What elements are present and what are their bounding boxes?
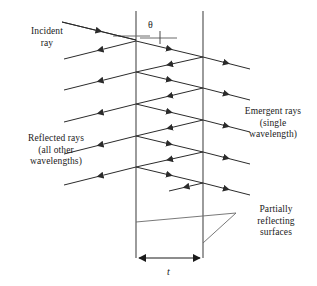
reflected-ray-3 [64,104,136,122]
internal-ray-segment-8 [136,152,203,167]
emergent-ray-1 [203,57,250,69]
reflected-ray-5 [64,167,136,185]
internal-ray-segment-6 [136,120,203,136]
emergent-ray-2 [203,88,250,100]
internal-ray-segment-5 [136,104,203,120]
angle-theta-label: θ [148,19,153,31]
angle-theta-construction [113,31,177,44]
partially-reflecting-surfaces-label: Partially reflecting surfaces [240,204,312,239]
internal-ray-segment-9 [136,167,203,183]
leader-line-to-right-surface [203,213,236,243]
internal-ray-segment-4 [136,88,203,104]
internal-ray-segment-7 [136,136,203,152]
figure-container: Incident ray Reflected rays (all other w… [0,0,317,286]
internal-ray-segment-10 [169,183,203,191]
reflected-rays-label: Reflected rays (all other wavelengths) [8,133,104,168]
emergent-ray-5 [203,183,250,195]
leader-line-to-left-surface [136,213,236,222]
emergent-rays-label: Emergent rays (single wavelength) [232,106,314,141]
incident-ray-label: Incident ray [16,26,78,49]
partial-surfaces-leader-lines [136,213,236,243]
emergent-ray-4 [203,152,250,164]
thickness-label: t [167,266,170,278]
internal-ray-segment-2 [136,57,203,72]
reflected-ray-2 [64,72,136,90]
internal-ray-segment-1 [136,41,203,57]
internal-zigzag-rays-group [136,41,203,191]
internal-ray-segment-3 [136,72,203,88]
